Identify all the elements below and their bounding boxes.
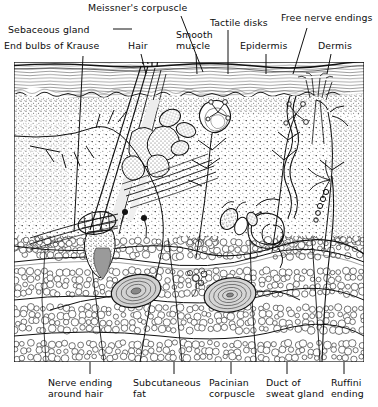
label-meissners-corpuscle: Meissner's corpuscle [88, 2, 187, 13]
label-sebaceous-gland: Sebaceous gland [8, 24, 90, 35]
label-subcutaneous-fat: Subcutaneous fat [133, 377, 201, 399]
skin-cross-section-figure: Meissner's corpuscle Sebaceous gland Hai… [0, 0, 378, 407]
label-nerve-ending-around-hair: Nerve ending around hair [48, 377, 112, 399]
label-end-bulbs-of-krause: End bulbs of Krause [4, 40, 99, 51]
label-pacinian-corpuscle: Pacinian corpuscle [209, 377, 255, 399]
label-smooth-muscle: Smooth muscle [176, 29, 213, 51]
label-epidermis: Epidermis [240, 40, 287, 51]
label-dermis: Dermis [318, 40, 352, 51]
skin-panel [5, 2, 367, 363]
label-duct-of-sweat-gland: Duct of sweat gland [266, 377, 324, 399]
label-free-nerve-endings: Free nerve endings [281, 12, 373, 23]
label-ruffini-ending: Ruffini ending [331, 377, 364, 399]
label-hair: Hair [128, 40, 148, 51]
label-tactile-disks: Tactile disks [210, 17, 268, 28]
diagram-canvas [0, 0, 378, 407]
